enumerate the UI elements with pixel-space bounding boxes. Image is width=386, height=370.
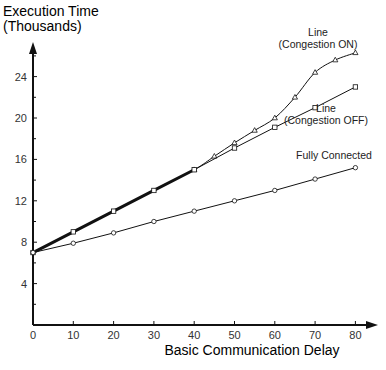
- data-point-fully-connected: [313, 177, 317, 181]
- x-axis-arrow: [366, 321, 378, 329]
- y-tick-label: 4: [21, 278, 27, 290]
- y-tick-label: 12: [15, 195, 27, 207]
- data-point-fully-connected: [192, 209, 196, 213]
- series-label-congestion-off-line1: Line: [316, 102, 336, 114]
- ticks: 010203040506070804812162024: [15, 56, 362, 341]
- data-point-congestion-on: [232, 140, 237, 145]
- data-point-congestion-off: [71, 230, 75, 234]
- y-tick-label: 8: [21, 236, 27, 248]
- y-axis-arrow: [29, 42, 37, 54]
- data-point-congestion-off: [232, 146, 236, 150]
- chart: 010203040506070804812162024 Execution Ti…: [0, 0, 386, 370]
- y-axis-label-line2: (Thousands): [3, 18, 82, 34]
- x-tick-label: 50: [228, 329, 240, 341]
- x-tick-label: 70: [309, 329, 321, 341]
- x-tick-label: 80: [349, 329, 361, 341]
- x-tick-label: 0: [30, 329, 36, 341]
- data-point-congestion-off: [152, 188, 156, 192]
- data-point-fully-connected: [232, 199, 236, 203]
- data-point-congestion-on: [252, 128, 257, 133]
- data-point-fully-connected: [71, 241, 75, 245]
- data-point-congestion-on: [353, 50, 358, 55]
- data-point-fully-connected: [353, 165, 357, 169]
- x-tick-label: 40: [188, 329, 200, 341]
- series-label-fully-connected: Fully Connected: [296, 149, 372, 161]
- x-axis-label: Basic Communication Delay: [164, 342, 339, 358]
- data-point-congestion-off: [353, 85, 357, 89]
- y-tick-label: 24: [15, 71, 27, 83]
- y-axis-label-line1: Execution Time: [3, 3, 99, 19]
- y-tick-label: 20: [15, 112, 27, 124]
- data-point-congestion-off: [192, 168, 196, 172]
- x-tick-label: 30: [148, 329, 160, 341]
- axes: [29, 42, 378, 329]
- data-point-congestion-off: [273, 125, 277, 129]
- x-tick-label: 10: [67, 329, 79, 341]
- x-tick-label: 60: [269, 329, 281, 341]
- data-point-fully-connected: [31, 250, 35, 254]
- data-point-fully-connected: [273, 188, 277, 192]
- series-label-congestion-on-line2: (Congestion ON): [279, 38, 358, 50]
- x-tick-label: 20: [107, 329, 119, 341]
- y-tick-label: 16: [15, 153, 27, 165]
- data-point-congestion-off: [111, 209, 115, 213]
- series-label-congestion-off-line2: (Congestion OFF): [284, 114, 368, 126]
- data-point-fully-connected: [111, 231, 115, 235]
- series-label-congestion-on-line1: Line: [308, 26, 328, 38]
- data-point-fully-connected: [152, 219, 156, 223]
